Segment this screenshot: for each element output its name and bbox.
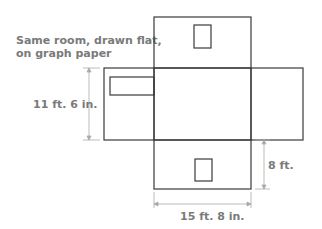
floor-width-label: 15 ft. 8 in.	[180, 210, 244, 223]
room-net-diagram: Same room, drawn flat, on graph paper	[0, 0, 322, 229]
floor-panel	[154, 68, 251, 140]
left-wall-panel	[104, 68, 154, 140]
right-wall-panel	[251, 68, 303, 140]
floor-width-dimension-line	[154, 192, 251, 208]
caption-line-2: on graph paper	[16, 47, 112, 60]
top-wall-window	[194, 25, 211, 48]
wall-height-label: 8 ft.	[268, 159, 294, 172]
bottom-wall-panel	[154, 140, 251, 189]
bottom-wall-window	[195, 159, 212, 181]
caption-line-1: Same room, drawn flat,	[16, 34, 162, 47]
wall-length-label: 11 ft. 6 in.	[33, 98, 97, 111]
left-wall-window	[110, 77, 154, 95]
